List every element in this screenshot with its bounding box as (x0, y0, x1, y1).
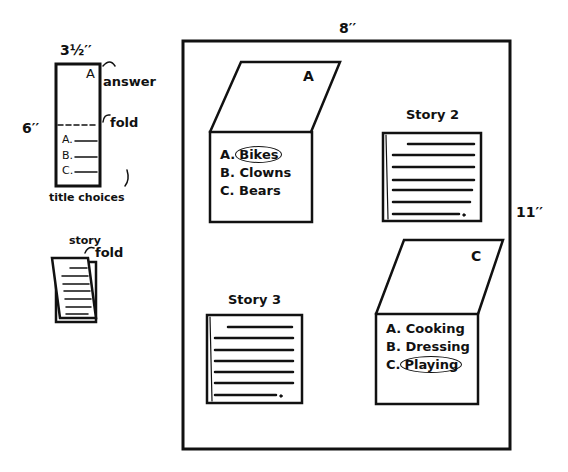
fold-arrow-icon (103, 115, 110, 122)
story2-box (383, 133, 481, 221)
choices-arrow-icon (125, 170, 128, 186)
circled-answer: Bikes (235, 146, 282, 163)
card-a-choices: A.Bikes B. Clowns C. Bears (220, 146, 291, 200)
fold-label: fold (110, 115, 138, 130)
answer-arrow-icon (103, 62, 115, 66)
sheet-width-label: 8′′ (339, 20, 356, 36)
card-c-answer-letter: C (471, 248, 481, 264)
story3-title: Story 3 (228, 292, 281, 307)
template-choice-c: C. (62, 164, 73, 177)
template-choice-a: A. (62, 133, 73, 146)
circled-answer: Playing (400, 356, 462, 373)
template-width-label: 3½′′ (60, 42, 92, 58)
sheet-height-label: 11′′ (516, 204, 543, 220)
card-c-flap (376, 240, 503, 314)
card-a-flap (210, 62, 340, 132)
template-answer-letter: A (86, 66, 95, 81)
story2-title: Story 2 (406, 107, 459, 122)
answer-label: answer (103, 74, 156, 89)
sheet-outline (183, 41, 510, 449)
template-height-label: 6′′ (22, 120, 39, 136)
story-fold-label: fold (95, 245, 123, 260)
title-choices-caption: title choices (49, 191, 125, 204)
template-choice-b: B. (62, 149, 73, 162)
story-fold-arrow-icon (85, 248, 94, 253)
card-c-choices: A. Cooking B. Dressing C.Playing (386, 320, 470, 374)
card-a-answer-letter: A (303, 68, 314, 84)
story-flap (52, 258, 96, 318)
